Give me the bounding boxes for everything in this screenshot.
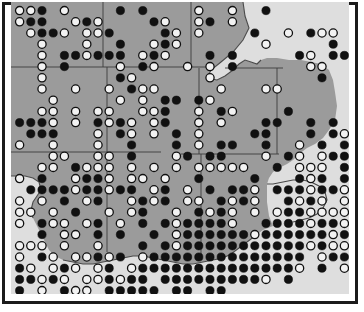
filled-circle-marker (161, 107, 169, 115)
filled-circle-marker (161, 253, 169, 261)
open-circle-marker (16, 242, 24, 250)
filled-circle-marker (206, 242, 214, 250)
filled-circle-marker (206, 264, 214, 272)
filled-circle-marker (340, 231, 348, 239)
filled-circle-marker (38, 175, 46, 183)
filled-circle-marker (116, 130, 124, 138)
filled-circle-marker (128, 141, 136, 149)
open-circle-marker (83, 253, 91, 261)
open-circle-marker (296, 197, 304, 205)
open-circle-marker (195, 107, 203, 115)
filled-circle-marker (251, 242, 259, 250)
filled-circle-marker (296, 208, 304, 216)
open-circle-marker (38, 242, 46, 250)
filled-circle-marker (128, 186, 136, 194)
filled-circle-marker (161, 186, 169, 194)
open-circle-marker (27, 208, 35, 216)
open-circle-marker (262, 275, 270, 283)
open-circle-marker (340, 242, 348, 250)
open-circle-marker (128, 175, 136, 183)
filled-circle-marker (161, 40, 169, 48)
open-circle-marker (16, 197, 24, 205)
filled-circle-marker (195, 175, 203, 183)
filled-circle-marker (262, 7, 270, 15)
filled-circle-marker (284, 231, 292, 239)
filled-circle-marker (228, 141, 236, 149)
open-circle-marker (38, 63, 46, 71)
open-circle-marker (49, 253, 57, 261)
open-circle-marker (49, 141, 57, 149)
open-circle-marker (150, 197, 158, 205)
filled-circle-marker (83, 18, 91, 26)
filled-circle-marker (273, 186, 281, 194)
open-circle-marker (172, 29, 180, 37)
open-circle-marker (273, 85, 281, 93)
open-circle-marker (251, 186, 259, 194)
filled-circle-marker (116, 253, 124, 261)
open-circle-marker (296, 152, 304, 160)
filled-circle-marker (116, 231, 124, 239)
open-circle-marker (72, 119, 80, 127)
open-circle-marker (228, 197, 236, 205)
filled-circle-marker (206, 231, 214, 239)
open-circle-marker (16, 7, 24, 15)
open-circle-marker (318, 197, 326, 205)
open-circle-marker (206, 63, 214, 71)
open-circle-marker (340, 186, 348, 194)
filled-circle-marker (240, 264, 248, 272)
filled-circle-marker (284, 264, 292, 272)
open-circle-marker (251, 197, 259, 205)
filled-circle-marker (284, 219, 292, 227)
filled-circle-marker (172, 287, 180, 295)
filled-circle-marker (184, 152, 192, 160)
filled-circle-marker (284, 253, 292, 261)
filled-circle-marker (206, 219, 214, 227)
open-circle-marker (72, 253, 80, 261)
open-circle-marker (296, 163, 304, 171)
open-circle-marker (16, 219, 24, 227)
open-circle-marker (150, 119, 158, 127)
filled-circle-marker (195, 96, 203, 104)
open-circle-marker (105, 152, 113, 160)
filled-circle-marker (296, 219, 304, 227)
filled-circle-marker (128, 287, 136, 295)
filled-circle-marker (284, 152, 292, 160)
filled-circle-marker (318, 74, 326, 82)
open-circle-marker (307, 51, 315, 59)
open-circle-marker (60, 29, 68, 37)
open-circle-marker (329, 242, 337, 250)
filled-circle-marker (217, 197, 225, 205)
open-circle-marker (307, 208, 315, 216)
open-circle-marker (116, 96, 124, 104)
filled-circle-marker (139, 197, 147, 205)
filled-circle-marker (217, 231, 225, 239)
filled-circle-marker (116, 74, 124, 82)
open-circle-marker (150, 63, 158, 71)
filled-circle-marker (340, 163, 348, 171)
filled-circle-marker (161, 119, 169, 127)
filled-circle-marker (128, 152, 136, 160)
open-circle-marker (16, 253, 24, 261)
filled-circle-marker (27, 119, 35, 127)
filled-circle-marker (228, 253, 236, 261)
filled-circle-marker (16, 287, 24, 295)
open-circle-marker (172, 208, 180, 216)
open-circle-marker (105, 253, 113, 261)
open-circle-marker (318, 29, 326, 37)
filled-circle-marker (262, 242, 270, 250)
filled-circle-marker (206, 18, 214, 26)
filled-circle-marker (240, 186, 248, 194)
filled-circle-marker (94, 231, 102, 239)
open-circle-marker (340, 197, 348, 205)
open-circle-marker (38, 85, 46, 93)
open-circle-marker (38, 275, 46, 283)
filled-circle-marker (60, 63, 68, 71)
open-circle-marker (38, 51, 46, 59)
filled-circle-marker (284, 275, 292, 283)
dot-density-map (11, 2, 349, 294)
open-circle-marker (128, 264, 136, 272)
open-circle-marker (307, 242, 315, 250)
filled-circle-marker (195, 242, 203, 250)
filled-circle-marker (38, 231, 46, 239)
filled-circle-marker (172, 141, 180, 149)
